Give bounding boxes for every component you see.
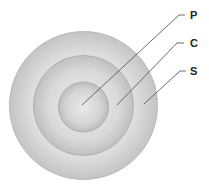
label-p: P: [190, 9, 197, 21]
concentric-circles-diagram: P C S: [0, 0, 209, 188]
inner-circle-p: [59, 82, 109, 132]
label-c: C: [190, 37, 198, 49]
label-s: S: [190, 65, 197, 77]
